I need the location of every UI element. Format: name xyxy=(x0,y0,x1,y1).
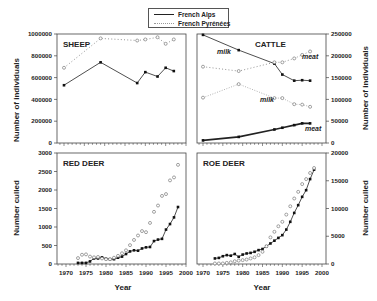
y-tick-label: 1500 xyxy=(38,205,52,212)
filled-square-marker-icon xyxy=(141,247,144,250)
filled-square-marker-icon xyxy=(145,246,148,249)
filled-square-marker-icon xyxy=(229,254,232,257)
open-circle-marker-icon xyxy=(289,205,292,208)
filled-square-marker-icon xyxy=(169,223,172,226)
plot-frame xyxy=(197,153,326,264)
cattle-annotation: meat xyxy=(305,125,322,132)
open-circle-marker-icon xyxy=(125,249,128,252)
y-tick-label: 5000 xyxy=(331,232,345,239)
open-circle-marker-icon xyxy=(144,38,147,41)
filled-square-marker-icon xyxy=(273,128,276,131)
filled-square-marker-icon xyxy=(136,82,139,85)
filled-square-marker-icon xyxy=(226,254,229,257)
plot-frame xyxy=(57,34,186,143)
open-circle-marker-icon xyxy=(217,262,220,265)
open-circle-marker-icon xyxy=(165,193,168,196)
open-circle-marker-icon xyxy=(161,194,164,197)
filled-square-marker-icon xyxy=(133,249,136,252)
cattle-panel: 050000100000150000200000250000CATTLEmilk… xyxy=(197,30,352,146)
open-circle-marker-icon xyxy=(269,236,272,239)
open-circle-marker-icon xyxy=(63,66,66,69)
open-circle-marker-icon xyxy=(109,258,112,261)
x-tick-label: 2000 xyxy=(179,269,193,276)
open-circle-marker-icon xyxy=(133,238,136,241)
open-circle-marker-icon xyxy=(169,179,172,182)
legend: French Alps French Pyrénées xyxy=(148,8,229,28)
y-tick-label: 200000 xyxy=(31,117,52,124)
filled-square-marker-icon xyxy=(77,262,80,265)
open-circle-marker-icon xyxy=(99,37,102,40)
filled-square-marker-icon xyxy=(161,238,164,241)
y-tick-label: 20000 xyxy=(331,149,349,156)
y-tick-label: 600000 xyxy=(31,74,52,81)
filled-square-marker-icon xyxy=(144,71,147,74)
x-tick-label: 1980 xyxy=(236,269,250,276)
legend-item-french-alps: French Alps xyxy=(149,10,228,19)
y-tick-label: 0 xyxy=(331,260,335,267)
filled-square-marker-icon xyxy=(297,204,300,207)
open-circle-marker-icon xyxy=(213,262,216,265)
filled-square-marker-icon xyxy=(63,84,66,87)
filled-square-marker-icon xyxy=(99,61,102,64)
open-circle-marker-icon xyxy=(153,210,156,213)
x-tick-label: 1990 xyxy=(139,269,153,276)
open-circle-marker-icon xyxy=(121,252,124,255)
open-circle-marker-icon xyxy=(229,261,232,264)
open-circle-marker-icon xyxy=(113,256,116,259)
roe-deer-panel: 0500010000150002000019701975198019851990… xyxy=(196,149,349,276)
open-circle-marker-icon xyxy=(241,259,244,262)
open-circle-marker-icon xyxy=(273,230,276,233)
filled-square-marker-icon xyxy=(214,257,217,260)
filled-square-marker-icon xyxy=(153,240,156,243)
y-axis-title-top-left: Number of individuals xyxy=(12,57,21,142)
filled-square-marker-icon xyxy=(273,239,276,242)
open-circle-marker-icon xyxy=(81,253,84,256)
x-tick-label: 1975 xyxy=(79,269,93,276)
red-deer-panel: 0500100015002000250030001970197519801985… xyxy=(38,149,193,276)
y-tick-label: 0 xyxy=(49,139,53,146)
open-circle-marker-icon xyxy=(164,42,167,45)
filled-square-marker-icon xyxy=(81,262,84,265)
open-circle-marker-icon xyxy=(177,163,180,166)
x-axis-title-left: Year xyxy=(115,283,132,292)
filled-square-marker-icon xyxy=(301,79,304,82)
filled-square-marker-icon xyxy=(309,79,312,82)
open-circle-marker-icon xyxy=(141,230,144,233)
open-circle-marker-icon xyxy=(202,96,205,99)
filled-square-marker-icon xyxy=(281,73,284,76)
open-circle-marker-icon xyxy=(149,221,152,224)
filled-square-marker-icon xyxy=(202,34,205,37)
x-tick-label: 1985 xyxy=(256,269,270,276)
open-circle-marker-icon xyxy=(136,39,139,42)
open-circle-marker-icon xyxy=(261,250,264,253)
open-circle-marker-icon xyxy=(137,234,140,237)
cattle-annotation: milk xyxy=(260,96,275,103)
filled-square-marker-icon xyxy=(218,257,221,260)
open-circle-marker-icon xyxy=(309,105,312,108)
filled-square-marker-icon xyxy=(249,252,252,255)
open-circle-marker-icon xyxy=(97,255,100,258)
filled-square-marker-icon xyxy=(309,178,312,181)
filled-square-marker-icon xyxy=(253,250,256,253)
filled-square-marker-icon xyxy=(233,253,236,256)
filled-square-marker-icon xyxy=(301,196,304,199)
y-tick-label: 250000 xyxy=(331,30,352,37)
open-circle-marker-icon xyxy=(89,255,92,258)
y-axis-title-bottom-left: Number culled xyxy=(12,180,21,236)
open-circle-marker-icon xyxy=(202,65,205,68)
y-tick-label: 200000 xyxy=(331,52,352,59)
filled-square-marker-icon xyxy=(125,253,128,256)
y-tick-label: 400000 xyxy=(31,96,52,103)
filled-square-marker-icon xyxy=(173,216,176,219)
x-tick-label: 1990 xyxy=(275,269,289,276)
filled-square-marker-icon xyxy=(164,66,167,69)
filled-square-marker-icon xyxy=(222,255,225,258)
filled-square-marker-icon xyxy=(173,70,176,73)
filled-square-marker-icon xyxy=(237,255,240,258)
x-axis-title-right: Year xyxy=(254,283,271,292)
filled-square-marker-icon xyxy=(157,238,160,241)
open-circle-marker-icon xyxy=(253,256,256,259)
open-circle-marker-icon xyxy=(93,256,96,259)
panel-title: SHEEP xyxy=(63,40,91,49)
y-tick-label: 150000 xyxy=(331,74,352,81)
